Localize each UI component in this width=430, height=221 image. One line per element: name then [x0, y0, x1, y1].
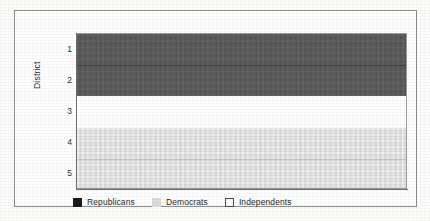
y-tick-label-1: 1 [50, 44, 72, 53]
chart-figure: 12345 District RepublicansDemocratsIndep… [0, 0, 430, 221]
x-axis-line [76, 189, 408, 190]
y-axis-tick-labels: 12345 [47, 33, 72, 189]
y-tick-label-5: 5 [50, 169, 72, 178]
legend-item-republicans[interactable]: Republicans [73, 197, 135, 207]
y-axis-line [76, 33, 77, 190]
republicans-swatch [73, 198, 82, 207]
y-axis-title: District [32, 61, 42, 89]
legend-label-democrats: Democrats [166, 197, 208, 207]
band-independents [77, 96, 406, 127]
gridline-lower [77, 159, 406, 160]
gridline-upper [77, 65, 406, 66]
y-tick-label-2: 2 [50, 76, 72, 85]
plot-area [76, 33, 407, 189]
chart-frame-border: 12345 District RepublicansDemocratsIndep… [14, 10, 417, 207]
legend-item-independents[interactable]: Independents [225, 197, 292, 207]
chart-legend: RepublicansDemocratsIndependents [73, 197, 292, 207]
y-tick-label-3: 3 [50, 107, 72, 116]
legend-label-republicans: Republicans [87, 197, 135, 207]
democrats-swatch [152, 198, 161, 207]
legend-item-democrats[interactable]: Democrats [152, 197, 208, 207]
legend-label-independents: Independents [239, 197, 292, 207]
y-tick-label-4: 4 [50, 138, 72, 147]
independents-swatch [225, 198, 234, 207]
